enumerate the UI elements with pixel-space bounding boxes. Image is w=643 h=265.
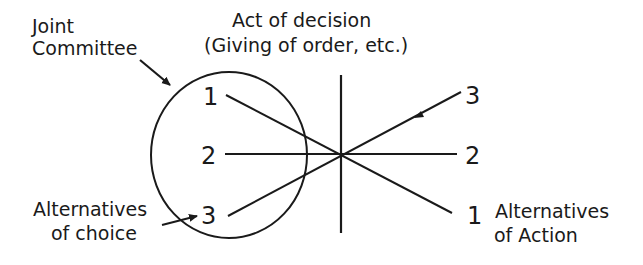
action-number-2: 2 xyxy=(465,142,480,170)
alternatives-of-action-label-line2: of Action xyxy=(494,224,578,246)
joint-committee-label-line2: Committee xyxy=(32,37,137,59)
alternatives-of-choice-label-line1: Alternatives xyxy=(33,198,147,220)
action-number-1: 1 xyxy=(467,202,482,230)
alternatives-of-choice-arrow xyxy=(162,216,197,225)
action-number-3: 3 xyxy=(465,82,480,110)
decision-diagram: Joint Committee Act of decision (Giving … xyxy=(0,0,643,265)
act-of-decision-label-line2: (Giving of order, etc.) xyxy=(204,34,408,56)
joint-committee-label-line1: Joint xyxy=(31,15,74,37)
diagram-svg: Joint Committee Act of decision (Giving … xyxy=(0,0,643,265)
choice-number-3: 3 xyxy=(201,202,216,230)
choice-number-1: 1 xyxy=(203,83,218,111)
act-of-decision-label-line1: Act of decision xyxy=(232,9,371,31)
joint-committee-arrow xyxy=(140,60,170,85)
choice-number-2: 2 xyxy=(201,142,216,170)
alternatives-of-action-label-line1: Alternatives xyxy=(495,200,609,222)
alternatives-of-choice-label-line2: of choice xyxy=(51,222,137,244)
